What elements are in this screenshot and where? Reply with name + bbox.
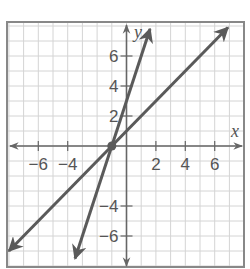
x-tick-label: −6 [29,155,48,174]
x-axis-label: x [230,121,239,141]
x-tick-label: 2 [151,155,160,174]
x-tick-label: 4 [181,155,190,174]
y-tick-label: −4 [99,197,118,216]
grid-lines [7,22,244,267]
coordinate-graph: −6−4246642−4−6 x y [0,0,250,269]
y-axis-label: y [132,22,142,42]
y-tick-label: 2 [109,107,118,126]
x-tick-label: 6 [210,155,219,174]
axes [10,25,242,266]
y-tick-label: 6 [109,47,118,66]
x-tick-label: −4 [58,155,77,174]
y-tick-label: −6 [99,227,118,246]
intersection-point [107,142,116,151]
graph-border [7,22,244,267]
plotted-points [107,142,116,151]
y-tick-label: 4 [109,77,118,96]
